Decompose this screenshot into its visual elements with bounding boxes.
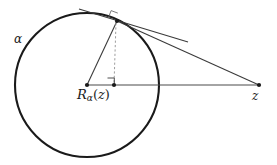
reflection-label-base: R (77, 87, 87, 102)
reflection-label-arg: z (98, 87, 105, 102)
segment-radius-to-tangent-point (87, 21, 117, 85)
segment-tangent-point-to-z (117, 21, 259, 85)
point-tangent (115, 19, 119, 23)
segment-perpendicular-drop (114, 23, 116, 85)
circle-label-alpha: α (14, 33, 22, 45)
segment-tangent-line (79, 9, 188, 42)
geometry-figure: α Rα(z) z (0, 0, 277, 165)
point-reflection (112, 83, 116, 87)
point-label-z: z (252, 90, 258, 102)
point-z (257, 83, 261, 87)
figure-canvas (0, 0, 277, 165)
reflection-label-close-paren: ) (105, 87, 110, 102)
reflection-point-label: Rα(z) (77, 88, 110, 103)
